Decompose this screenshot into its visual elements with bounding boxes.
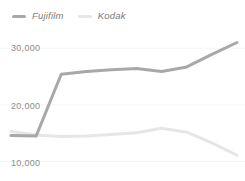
chart-legend: Fujifilm Kodak — [0, 7, 245, 25]
series-line-fujifilm — [11, 43, 237, 137]
y-tick-label-30000: 30,000 — [11, 44, 40, 53]
y-tick-label-20000: 20,000 — [11, 102, 40, 111]
plot-area: 30,000 20,000 10,000 — [0, 28, 245, 181]
y-tick-label-10000: 10,000 — [11, 159, 40, 168]
series-lines — [11, 43, 237, 156]
line-chart: Fujifilm Kodak 30,000 20,000 10,000 — [0, 0, 245, 181]
series-line-kodak — [11, 128, 237, 155]
legend-item-fujifilm[interactable]: Fujifilm — [12, 11, 64, 21]
legend-swatch-kodak — [78, 15, 92, 18]
legend-swatch-fujifilm — [12, 15, 26, 18]
legend-item-kodak[interactable]: Kodak — [78, 11, 126, 21]
legend-label-fujifilm: Fujifilm — [32, 11, 64, 21]
legend-label-kodak: Kodak — [98, 11, 126, 21]
